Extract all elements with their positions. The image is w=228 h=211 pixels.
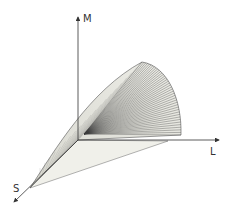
m-axis-label: M [83, 14, 92, 24]
lms-cone-diagram [0, 0, 228, 211]
s-axis-label: S [13, 184, 19, 194]
l-axis-label: L [210, 147, 216, 157]
